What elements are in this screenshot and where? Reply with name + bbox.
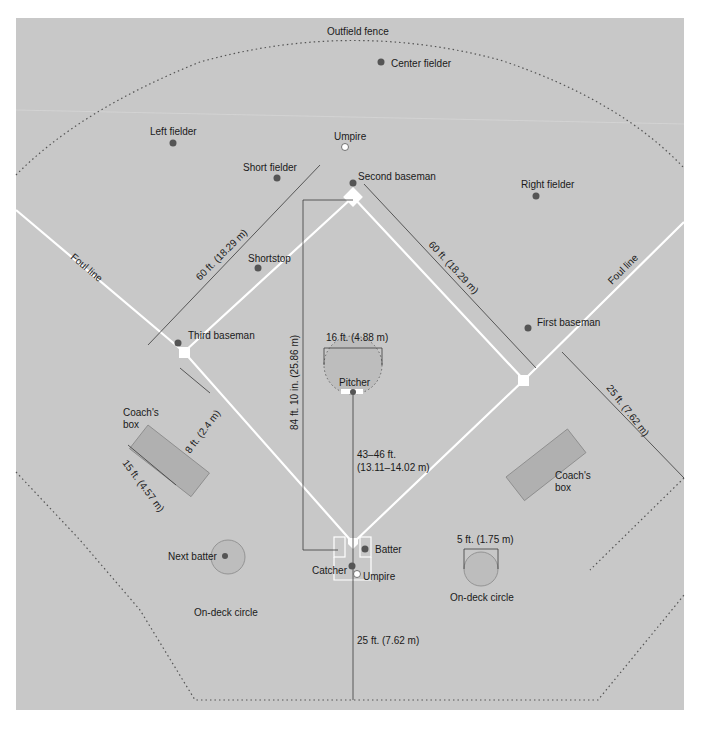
pitcher-label: Pitcher: [339, 377, 371, 388]
right-fielder-marker: [533, 193, 540, 200]
home-umpire-marker: [354, 571, 361, 578]
coach-box-right-label-1: Coach's: [555, 470, 591, 481]
shortstop-label: Shortstop: [248, 253, 291, 264]
first-baseman-label: First baseman: [537, 317, 600, 328]
next-batter-label: Next batter: [168, 551, 218, 562]
dim-pitching-distance-label-2: (13.11–14.02 m): [357, 462, 430, 473]
center-fielder-label: Center fielder: [391, 58, 452, 69]
left-fielder-label: Left fielder: [150, 126, 197, 137]
on-deck-circle-right-label: On-deck circle: [450, 592, 514, 603]
catcher-label: Catcher: [312, 565, 348, 576]
on-deck-circle-right: [464, 552, 498, 586]
field-umpire-label: Umpire: [334, 131, 367, 142]
catcher-marker: [349, 563, 356, 570]
coach-box-left-label-1: Coach's: [123, 407, 159, 418]
field-umpire-marker: [342, 144, 349, 151]
dim-home-to-second-label: 84 ft. 10 in. (25.86 m): [289, 335, 300, 430]
dim-backstop-label: 25 ft. (7.62 m): [357, 635, 419, 646]
left-fielder-marker: [170, 140, 177, 147]
first-baseman-marker: [525, 325, 532, 332]
outfield-fence-label: Outfield fence: [327, 26, 389, 37]
pitcher-marker: [350, 389, 356, 395]
short-fielder-marker: [274, 175, 281, 182]
batter-label: Batter: [375, 544, 402, 555]
right-fielder-label: Right fielder: [521, 179, 575, 190]
batter-marker: [362, 546, 369, 553]
shortstop-marker: [255, 265, 262, 272]
dim-pitching-distance-label-1: 43–46 ft.: [357, 449, 396, 460]
softball-field-diagram: Outfield fence Center fielder Left field…: [0, 0, 701, 732]
short-fielder-label: Short fielder: [243, 162, 298, 173]
third-baseman-marker: [175, 340, 182, 347]
second-baseman-marker: [350, 180, 357, 187]
first-base: [518, 375, 529, 386]
on-deck-circle-left-label: On-deck circle: [194, 607, 258, 618]
third-baseman-label: Third baseman: [188, 330, 255, 341]
next-batter-marker: [222, 553, 228, 559]
center-fielder-marker: [378, 59, 385, 66]
coach-box-right-label-2: box: [555, 482, 571, 493]
home-umpire-label: Umpire: [363, 571, 396, 582]
third-base: [179, 347, 190, 358]
second-baseman-label: Second baseman: [358, 171, 436, 182]
dim-on-deck-label: 5 ft. (1.75 m): [457, 534, 514, 545]
coach-box-left-label-2: box: [123, 419, 139, 430]
dim-pitcher-circle-label: 16 ft. (4.88 m): [326, 332, 388, 343]
